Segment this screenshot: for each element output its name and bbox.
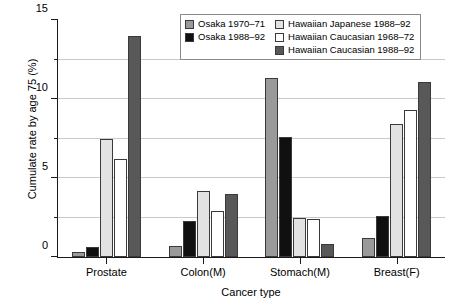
bar-group: Prostate [58,20,155,257]
bar[interactable] [86,247,99,257]
legend-column: Osaka 1970–71Osaka 1988–92 [185,18,265,56]
y-tick-major [51,177,58,178]
bar[interactable] [404,110,417,257]
x-tick [203,257,204,264]
legend-item[interactable]: Hawaiian Caucasian 1988–92 [275,44,414,56]
bar[interactable] [390,124,403,257]
y-axis-title: Cumulate rate by age 75 (%) [26,34,38,224]
bar[interactable] [72,252,85,257]
bar[interactable] [418,82,431,257]
legend-item-label: Hawaiian Japanese 1988–92 [288,18,411,30]
bar[interactable] [183,221,196,257]
legend-column: Hawaiian Japanese 1988–92Hawaiian Caucas… [275,18,414,56]
x-tick [106,257,107,264]
chart-legend: Osaka 1970–71Osaka 1988–92Hawaiian Japan… [180,14,421,60]
x-axis-title: Cancer type [57,286,445,298]
legend-swatch-icon [275,33,284,42]
y-tick-major [51,256,58,257]
legend-swatch-icon [275,46,284,55]
bar[interactable] [265,78,278,257]
y-tick-label: 15 [36,2,48,14]
y-tick-major [51,19,58,20]
legend-item[interactable]: Osaka 1988–92 [185,31,265,43]
legend-swatch-icon [185,20,194,29]
bar[interactable] [279,137,292,257]
bar[interactable] [100,139,113,258]
y-tick-major [51,98,58,99]
y-tick-label: 5 [42,160,48,172]
bar[interactable] [197,191,210,257]
x-tick-label: Prostate [58,266,155,278]
legend-item-label: Hawaiian Caucasian 1988–92 [288,44,414,56]
bar-chart-figure: Cumulate rate by age 75 (%) 051015 Prost… [0,0,452,302]
x-tick-label: Stomach(M) [252,266,349,278]
x-tick-label: Breast(F) [348,266,445,278]
y-tick-label: 10 [36,81,48,93]
legend-item[interactable]: Osaka 1970–71 [185,18,265,30]
legend-item-label: Osaka 1988–92 [198,31,265,43]
bar[interactable] [114,159,127,257]
legend-swatch-icon [185,33,194,42]
x-tick-label: Colon(M) [155,266,252,278]
x-tick [397,257,398,264]
legend-item-label: Hawaiian Caucasian 1968–72 [288,31,414,43]
x-tick [300,257,301,264]
bar[interactable] [307,219,320,257]
legend-item-label: Osaka 1970–71 [198,18,265,30]
legend-item[interactable]: Hawaiian Caucasian 1968–72 [275,31,414,43]
bar-group-bars [58,20,155,257]
bar[interactable] [211,211,224,257]
bar[interactable] [293,218,306,257]
legend-swatch-icon [275,20,284,29]
bar[interactable] [376,216,389,257]
bar[interactable] [321,244,334,257]
legend-item[interactable]: Hawaiian Japanese 1988–92 [275,18,414,30]
y-tick-label: 0 [42,239,48,251]
bar[interactable] [362,238,375,257]
bar[interactable] [225,194,238,257]
bar[interactable] [169,246,182,257]
bar[interactable] [128,36,141,257]
